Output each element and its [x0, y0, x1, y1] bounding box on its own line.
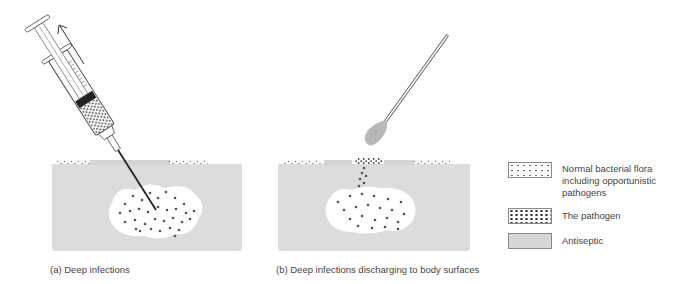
swatch-dense-dots — [508, 208, 552, 224]
lesion-a — [109, 184, 202, 238]
caption-panel-a: (a) Deep infections — [50, 264, 130, 275]
lesion-b — [325, 186, 415, 233]
discharge-site — [355, 158, 383, 164]
surface-flora-b-right — [414, 159, 450, 164]
legend-label-line: Normal bacterial flora — [562, 163, 656, 175]
caption-panel-b: (b) Deep infections discharging to body … — [276, 264, 479, 275]
surface-flora-b-left — [283, 159, 323, 164]
swatch-grey-fill — [508, 233, 552, 249]
antiseptic-layer-b-2 — [384, 160, 414, 165]
antiseptic-layer-b-1 — [324, 160, 352, 165]
legend-label-line: including opportunistic — [562, 175, 656, 187]
syringe — [22, 13, 132, 159]
surface-flora-a-left — [56, 159, 90, 164]
legend-label-line: pathogens — [562, 187, 656, 199]
swab — [365, 36, 447, 145]
antiseptic-layer-a — [90, 160, 170, 165]
panel-b — [278, 36, 470, 251]
legend-label: The pathogen — [562, 210, 621, 222]
swatch-sparse-dots — [508, 162, 552, 178]
surface-flora-a-right — [168, 159, 208, 164]
panel-a — [22, 13, 242, 251]
legend-label: Antiseptic — [562, 235, 603, 247]
